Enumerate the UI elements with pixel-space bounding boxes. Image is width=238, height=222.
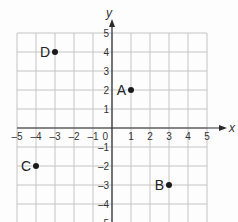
x-axis-arrow-icon	[219, 125, 227, 131]
x-tick-label: –1	[87, 131, 99, 142]
point-marker	[166, 182, 172, 188]
y-tick-label: 4	[103, 47, 109, 58]
point-marker	[33, 163, 39, 169]
point-label: B	[155, 177, 164, 193]
y-axis-arrow-icon	[109, 19, 115, 27]
plotted-points: ABCD	[21, 44, 172, 193]
y-tick-label: –5	[98, 218, 110, 222]
x-tick-label: 2	[147, 131, 153, 142]
x-tick-label: –4	[30, 131, 42, 142]
y-tick-label: 3	[103, 66, 109, 77]
x-axis-label: x	[228, 121, 236, 135]
point-marker	[52, 49, 58, 55]
point-label: A	[117, 82, 127, 98]
point-marker	[128, 87, 134, 93]
x-tick-label: 0	[102, 131, 108, 142]
y-tick-label: –4	[98, 199, 110, 210]
x-tick-label: –2	[68, 131, 80, 142]
x-tick-label: 1	[128, 131, 134, 142]
y-tick-label: 1	[103, 104, 109, 115]
x-tick-label: 5	[204, 131, 210, 142]
y-tick-label: 2	[103, 85, 109, 96]
y-tick-label: –2	[98, 161, 110, 172]
y-axis-label: y	[105, 6, 113, 20]
x-tick-label: 4	[185, 131, 191, 142]
y-tick-label: –3	[98, 180, 110, 191]
x-tick-label: –5	[11, 131, 23, 142]
x-tick-label: 3	[166, 131, 172, 142]
y-tick-label: 5	[103, 28, 109, 39]
point-label: C	[21, 158, 31, 174]
y-tick-label: –1	[98, 142, 110, 153]
x-tick-label: –3	[49, 131, 61, 142]
point-label: D	[40, 44, 50, 60]
coordinate-plane: x y –5–4–3–2–101234554321–1–2–3–4–5 ABCD	[0, 0, 238, 222]
